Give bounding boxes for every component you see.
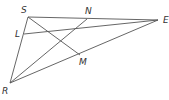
- label-r: R: [2, 86, 8, 96]
- label-l: L: [15, 29, 20, 39]
- segment-se: [28, 17, 158, 20]
- label-e: E: [163, 15, 169, 25]
- geometry-diagram: S N E L M R: [0, 0, 169, 100]
- label-s: S: [21, 5, 27, 15]
- segment-sm: [28, 17, 80, 55]
- label-n: N: [85, 6, 92, 16]
- segment-re: [10, 20, 158, 83]
- segment-sr: [10, 17, 28, 83]
- segment-le: [24, 20, 158, 34]
- label-m: M: [79, 57, 87, 67]
